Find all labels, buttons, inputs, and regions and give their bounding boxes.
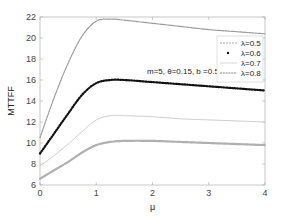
legend-label-0: λ=0.5	[241, 39, 261, 48]
y-tick-label: 12	[26, 117, 36, 127]
y-tick-label: 8	[31, 159, 36, 169]
x-tick-label: 3	[206, 188, 211, 198]
legend-marker-1	[227, 52, 229, 54]
legend-label-3: λ=0.8	[241, 69, 261, 78]
legend-label-2: λ=0.7	[241, 59, 261, 68]
chart: 012346810121416182022μMTTFFm=5, θ=0.15, …	[0, 0, 281, 216]
y-axis-label: MTTFF	[6, 86, 16, 116]
x-tick-label: 4	[262, 188, 267, 198]
y-tick-label: 16	[26, 75, 36, 85]
x-axis-label: μ	[150, 202, 155, 212]
x-tick-label: 2	[150, 188, 155, 198]
y-tick-label: 18	[26, 54, 36, 64]
y-tick-label: 14	[26, 96, 36, 106]
y-tick-label: 20	[26, 33, 36, 43]
y-tick-label: 6	[31, 180, 36, 190]
x-tick-label: 0	[37, 188, 42, 198]
y-tick-label: 22	[26, 12, 36, 22]
legend-label-1: λ=0.6	[241, 49, 261, 58]
x-tick-label: 1	[94, 188, 99, 198]
y-tick-label: 10	[26, 138, 36, 148]
